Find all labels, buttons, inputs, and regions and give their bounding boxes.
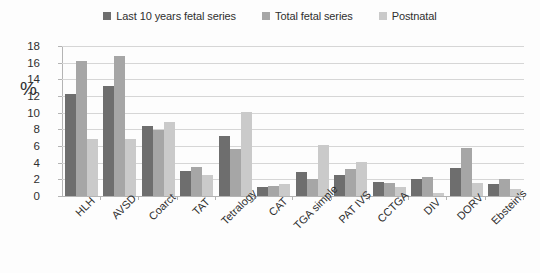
x-axis-label-cell: HLH — [62, 200, 101, 270]
x-axis-labels: HLHAVSDCoarctTATTetralogyCATTGA simplePA… — [62, 200, 524, 270]
bar — [114, 56, 125, 196]
bar — [87, 139, 98, 197]
legend-item-postnatal: Postnatal — [379, 10, 437, 22]
bar — [450, 168, 461, 196]
y-axis-tick-mark — [58, 196, 62, 197]
bar — [230, 149, 241, 196]
bar — [296, 172, 307, 196]
bar — [241, 112, 252, 196]
bar — [345, 169, 356, 197]
bar-group — [332, 46, 371, 196]
y-axis-tick-label: 16 — [0, 57, 40, 69]
bar-group — [139, 46, 178, 196]
bar — [219, 136, 230, 196]
y-axis-tick-label: 18 — [0, 40, 40, 52]
x-axis-label-cell: TGA simple — [293, 200, 332, 270]
y-axis-tick-label: 14 — [0, 73, 40, 85]
x-axis-label: CAT — [266, 195, 289, 218]
bar — [411, 179, 422, 197]
legend-item-last-10-years-fetal-series: Last 10 years fetal series — [103, 10, 236, 22]
x-axis-label-cell: DIV — [409, 200, 448, 270]
bar-group — [409, 46, 448, 196]
legend-label: Last 10 years fetal series — [116, 10, 236, 22]
bar-group — [486, 46, 525, 196]
bar — [461, 148, 472, 196]
bar — [76, 61, 87, 196]
bar — [202, 175, 213, 196]
bar-group — [62, 46, 101, 196]
y-axis-tick-label: 4 — [0, 157, 40, 169]
x-axis-label: HLH — [73, 195, 97, 219]
bar — [164, 122, 175, 196]
y-axis-tick-label: 2 — [0, 173, 40, 185]
x-axis-label: TAT — [190, 195, 212, 217]
bar — [103, 86, 114, 196]
y-axis-tick-label: 12 — [0, 90, 40, 102]
bar-group — [101, 46, 140, 196]
bar-series-layer — [62, 46, 524, 196]
bar-group — [255, 46, 294, 196]
bar — [65, 94, 76, 197]
legend-item-total-fetal-series: Total fetal series — [262, 10, 353, 22]
x-axis-label-cell: Tetralogy — [216, 200, 255, 270]
bar — [180, 171, 191, 196]
bar — [153, 130, 164, 196]
legend-label: Total fetal series — [275, 10, 353, 22]
bar-group — [293, 46, 332, 196]
bar — [422, 177, 433, 196]
y-axis-tick-label: 10 — [0, 107, 40, 119]
bar-group — [178, 46, 217, 196]
bar-group — [216, 46, 255, 196]
bar — [307, 179, 318, 196]
legend-swatch-icon — [103, 12, 111, 20]
bar — [268, 186, 279, 196]
x-axis-label-cell: TAT — [178, 200, 217, 270]
bar — [191, 167, 202, 196]
legend-swatch-icon — [262, 12, 270, 20]
x-axis-label-cell: CAT — [255, 200, 294, 270]
bar — [373, 182, 384, 196]
bar — [125, 139, 136, 197]
x-axis-label-cell: AVSD — [101, 200, 140, 270]
bar — [488, 184, 499, 196]
y-axis-tick-label: 8 — [0, 123, 40, 135]
bar — [384, 183, 395, 196]
plot-area: 181614121086420 — [62, 46, 524, 196]
y-axis-tick-label: 0 — [0, 190, 40, 202]
bar-group — [447, 46, 486, 196]
x-axis-label-cell: Coarct — [139, 200, 178, 270]
x-axis-label-cell: CCTGA — [370, 200, 409, 270]
bar — [499, 179, 510, 197]
bar — [142, 126, 153, 196]
bar-group — [370, 46, 409, 196]
x-axis-label: DIV — [421, 196, 442, 217]
y-axis-tick-label: 6 — [0, 140, 40, 152]
legend-label: Postnatal — [392, 10, 437, 22]
x-axis-label-cell: PAT IVS — [332, 200, 371, 270]
legend-swatch-icon — [379, 12, 387, 20]
x-axis-label-cell: Ebstein's — [486, 200, 525, 270]
bar-chart: Last 10 years fetal series Total fetal s… — [0, 0, 540, 273]
x-axis-label-cell: DORV — [447, 200, 486, 270]
chart-legend: Last 10 years fetal series Total fetal s… — [0, 10, 540, 22]
